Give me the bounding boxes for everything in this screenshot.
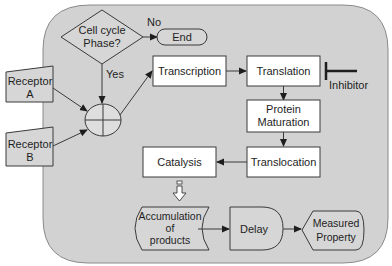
measured-line2: Property — [316, 231, 356, 243]
yes-label: Yes — [106, 68, 124, 80]
delay-shape: Delay — [230, 207, 283, 250]
measured-property: Measured Property — [302, 211, 364, 250]
measured-line1: Measured — [313, 217, 360, 229]
maturation-label-line2: Maturation — [258, 116, 310, 128]
no-label: No — [147, 16, 161, 28]
inhibitor-label: Inhibitor — [329, 79, 368, 91]
receptor-b: Receptor B — [6, 127, 53, 166]
accumulation-line2: of — [166, 222, 175, 234]
receptor-a-line2: A — [26, 88, 34, 100]
receptor-b-line1: Receptor — [8, 138, 53, 150]
accumulation-line1: Accumulation — [138, 210, 201, 222]
receptor-a-line1: Receptor — [8, 75, 53, 87]
transcription-label: Transcription — [158, 65, 221, 77]
catalysis-box: Catalysis — [143, 147, 216, 177]
accumulation-line3: products — [150, 234, 190, 246]
receptor-a: Receptor A — [6, 66, 53, 102]
accumulation-of-products: Accumulation of products — [135, 207, 209, 250]
receptor-b-line2: B — [26, 151, 33, 163]
end-terminator: End — [157, 29, 207, 45]
transcription-box: Transcription — [153, 56, 226, 86]
catalysis-label: Catalysis — [157, 156, 202, 168]
delay-label: Delay — [240, 223, 269, 235]
protein-maturation-box: Protein Maturation — [247, 100, 320, 132]
summing-junction — [85, 104, 121, 136]
decision-label-line1: Cell cycle — [78, 24, 125, 36]
translocation-label: Translocation — [251, 156, 317, 168]
translation-label: Translation — [256, 65, 310, 77]
maturation-label-line1: Protein — [266, 103, 301, 115]
translation-box: Translation — [247, 56, 320, 86]
translocation-box: Translocation — [247, 147, 320, 177]
decision-label-line2: Phase? — [83, 37, 120, 49]
end-label: End — [172, 31, 192, 43]
flow-diagram: Cell cycle Phase? No End Yes Receptor A … — [0, 0, 392, 266]
